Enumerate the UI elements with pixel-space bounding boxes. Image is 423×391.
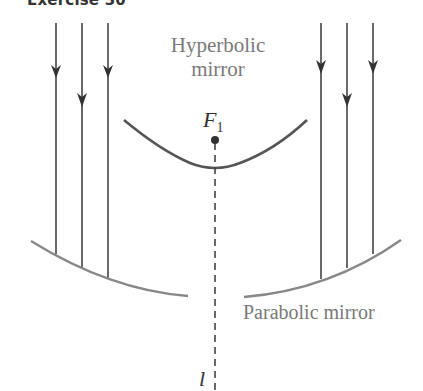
right-light-rays — [316, 23, 378, 279]
focus-letter: F — [203, 107, 216, 132]
focus-label: F1 — [203, 107, 223, 136]
left-light-rays — [51, 23, 113, 279]
parabolic-mirror-left — [31, 241, 188, 296]
focus-subscript: 1 — [216, 120, 223, 135]
parabolic-mirror-label: Parabolic mirror — [243, 300, 375, 324]
hyperbolic-mirror-text: Hyperbolicmirror — [171, 33, 265, 81]
diagram-canvas: Exercise 30 — [0, 0, 423, 391]
focus-point — [211, 136, 219, 144]
axis-label: l — [199, 366, 205, 391]
parabolic-mirror-right — [244, 240, 401, 297]
hyperbolic-mirror-label: Hyperbolicmirror — [148, 33, 288, 81]
